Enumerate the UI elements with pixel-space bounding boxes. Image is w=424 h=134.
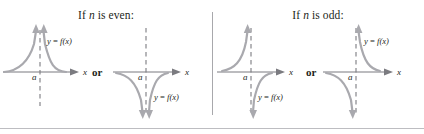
curve-left-branch: [222, 31, 248, 71]
function-label: y = f(x): [153, 92, 179, 102]
graph-even-both-down: x a y = f(x): [112, 22, 210, 122]
curve-left-arrowhead: [139, 110, 147, 119]
function-label-eq: =: [51, 36, 60, 46]
asymptote-label-a: a: [32, 72, 37, 82]
panel-title-even-prefix: If: [78, 9, 89, 21]
function-label-arg: (x): [169, 92, 179, 102]
function-label: y = f(x): [257, 92, 283, 102]
function-label: y = f(x): [46, 36, 72, 46]
graph-odd-up-down: x a y = f(x): [216, 22, 314, 122]
function-label: y = f(x): [363, 36, 389, 46]
asymptote-label-a: a: [138, 72, 143, 82]
x-axis-label: x: [396, 67, 401, 77]
x-axis-arrowhead: [172, 68, 181, 75]
figure-baseline: [0, 128, 424, 129]
panel-title-odd-prefix: If: [292, 9, 303, 21]
asymptote-label-a: a: [243, 72, 248, 82]
panel-title-odd: If n is odd:: [212, 9, 424, 21]
function-label-arg: (x): [62, 36, 72, 46]
function-label-arg: (x): [273, 92, 283, 102]
function-label-arg: (x): [379, 36, 389, 46]
x-axis-label: x: [82, 67, 87, 77]
curve-left-arrowhead: [349, 110, 357, 119]
x-axis-arrowhead: [384, 68, 393, 75]
panel-divider: [212, 12, 213, 115]
graph-even-both-up: x a y = f(x): [2, 22, 100, 122]
curve-left-arrowhead: [244, 24, 252, 33]
curve-right-arrowhead: [145, 110, 153, 119]
curve-left-arrowhead: [32, 24, 40, 33]
panel-title-even-suffix: is even:: [95, 9, 134, 21]
asymptote-figure: If n is even: If n is odd: or or x a y =…: [0, 0, 424, 134]
x-axis-label: x: [184, 67, 189, 77]
graph-odd-down-up: x a y = f(x): [322, 22, 420, 122]
curve-right-arrowhead: [249, 110, 257, 119]
curve-left-branch: [4, 31, 36, 72]
x-axis-arrowhead: [276, 68, 285, 75]
x-axis-arrowhead: [70, 68, 79, 75]
function-label-eq: =: [368, 36, 377, 46]
curve-right-arrowhead: [40, 24, 48, 33]
asymptote-label-a: a: [348, 72, 353, 82]
panel-title-odd-suffix: is odd:: [309, 9, 344, 21]
panel-title-even: If n is even:: [0, 9, 212, 21]
function-label-eq: =: [262, 92, 271, 102]
x-axis-label: x: [288, 67, 293, 77]
function-label-eq: =: [158, 92, 167, 102]
